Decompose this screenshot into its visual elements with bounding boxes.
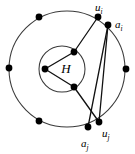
label-a-i: ai [115, 18, 123, 33]
node-outer-top-left [36, 14, 43, 21]
label-u-i-sub: i [101, 7, 103, 16]
node-outer-bottom-left [36, 118, 43, 125]
label-a-i-sub: i [121, 24, 123, 33]
node-outer-right [123, 66, 130, 73]
edge-a-i-to-a-j [88, 25, 108, 127]
label-h: H [60, 61, 71, 76]
label-a-j: aj [81, 137, 89, 152]
svg-text:ai: ai [115, 18, 123, 33]
node-outer-left [6, 65, 13, 72]
edge-a-i-to-u-j [99, 25, 108, 122]
svg-text:aj: aj [81, 137, 89, 152]
node-a-j [85, 124, 92, 131]
node-inner-top [71, 49, 78, 56]
label-a-j-sub: j [86, 143, 89, 152]
label-u-j: uj [102, 127, 110, 142]
diagram-canvas: H ui ai uj aj [0, 0, 135, 154]
node-inner-bottom [71, 84, 78, 91]
svg-text:uj: uj [102, 127, 110, 142]
node-a-i [105, 22, 112, 29]
node-u-j [96, 119, 103, 126]
edge-inner-top-to-u-i [74, 17, 98, 52]
node-inner-left [42, 66, 49, 73]
label-u-j-sub: j [107, 133, 110, 142]
